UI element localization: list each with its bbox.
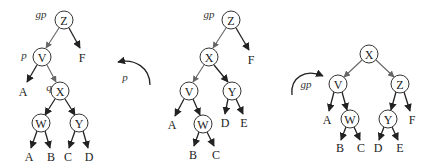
- edge-x-y: [214, 65, 228, 82]
- edge-x-v: [193, 65, 204, 82]
- tree-node-x: X: [360, 45, 378, 63]
- edge-w-c: [207, 132, 214, 146]
- edge-v-w: [193, 99, 200, 115]
- edge-w-b: [45, 131, 50, 148]
- edge-w-a: [31, 131, 37, 148]
- node-key: Y: [384, 113, 393, 127]
- edge-v-a: [329, 92, 334, 111]
- tree-node-v: V: [329, 75, 347, 93]
- tree-node-z: Z: [222, 11, 240, 29]
- subtree-leaf-b: B: [336, 141, 344, 155]
- node-key: Z: [396, 78, 403, 92]
- subtree-leaf-c: C: [357, 141, 365, 155]
- subtree-leaf-a: A: [323, 113, 332, 127]
- edge-y-d: [225, 99, 228, 114]
- node-key: V: [334, 78, 343, 92]
- rotation-label-p: p: [121, 71, 128, 83]
- node-key: Z: [60, 14, 67, 28]
- tree-node-w: W: [341, 110, 359, 128]
- subtree-leaf-e: E: [396, 141, 403, 155]
- pointer-label-gp: gp: [36, 8, 48, 20]
- tree-node-v: V: [33, 48, 51, 66]
- tree-node-x: X: [200, 48, 218, 66]
- edge-y-d: [83, 131, 88, 148]
- tree-node-y: Y: [379, 110, 397, 128]
- subtree-leaf-e: E: [240, 116, 247, 130]
- tree-node-w: W: [194, 115, 212, 133]
- node-key: Y: [75, 117, 84, 131]
- pointer-label-gp: gp: [204, 8, 216, 20]
- edge-v-a: [27, 65, 37, 82]
- edge-z-f: [404, 92, 410, 111]
- node-key: Z: [227, 14, 234, 28]
- edge-x-w: [45, 99, 55, 115]
- subtree-leaf-b: B: [189, 148, 197, 162]
- subtree-leaf-d: D: [374, 141, 383, 155]
- edge-x-v: [344, 60, 362, 77]
- tree-node-w: W: [32, 114, 50, 132]
- node-key: V: [185, 85, 194, 99]
- pointer-label-q: q: [46, 81, 52, 93]
- subtree-leaf-f: F: [79, 51, 86, 65]
- edge-v-a: [175, 99, 184, 116]
- node-key: X: [365, 48, 374, 62]
- edge-y-d: [379, 127, 384, 140]
- edge-z-y: [391, 92, 396, 110]
- tree-rotation-diagram: ZVXWYFAABCDZXVYWFADEBCXVZWYAFBCDE gppqgp…: [0, 0, 440, 166]
- edge-v-w: [342, 92, 347, 110]
- edge-x-z: [376, 60, 394, 77]
- subtree-leaf-c: C: [64, 150, 72, 164]
- edge-x-y: [65, 99, 75, 115]
- tree-node-x: X: [51, 82, 69, 100]
- edge-z-v: [46, 28, 59, 48]
- tree-node-y: Y: [223, 82, 241, 100]
- node-key: Y: [228, 85, 237, 99]
- node-key: W: [35, 117, 47, 131]
- edge-y-e: [392, 127, 398, 140]
- tree-after-edges: [329, 60, 410, 140]
- subtree-leaf-d: D: [221, 116, 230, 130]
- rotation-label-gp: gp: [301, 78, 313, 90]
- subtree-leaf-f: F: [409, 113, 416, 127]
- edge-y-c: [69, 131, 75, 148]
- edge-w-b: [341, 127, 346, 140]
- edge-y-e: [236, 99, 243, 114]
- subtree-leaf-c: C: [212, 148, 220, 162]
- pointer-label-p: p: [20, 49, 27, 61]
- edge-w-c: [354, 127, 360, 140]
- tree-node-z: Z: [391, 75, 409, 93]
- node-key: X: [56, 85, 65, 99]
- subtree-leaf-f: F: [248, 53, 255, 67]
- edge-z-f: [236, 28, 249, 50]
- edge-z-f: [69, 28, 80, 48]
- node-key: X: [205, 51, 214, 65]
- subtree-leaf-a: A: [19, 85, 28, 99]
- subtree-leaf-d: D: [85, 150, 94, 164]
- subtree-leaf-b: B: [47, 150, 55, 164]
- node-key: V: [38, 51, 47, 65]
- subtree-leaf-a: A: [25, 150, 34, 164]
- node-key: W: [197, 118, 209, 132]
- nodes-layer: ZVXWYFAABCDZXVYWFADEBCXVZWYAFBCDE: [19, 11, 416, 164]
- edge-v-x: [47, 65, 56, 82]
- edge-w-b: [194, 132, 199, 146]
- tree-node-z: Z: [55, 11, 73, 29]
- tree-node-v: V: [180, 82, 198, 100]
- edge-z-x: [213, 28, 226, 48]
- tree-node-y: Y: [70, 114, 88, 132]
- subtree-leaf-a: A: [168, 118, 177, 132]
- node-key: W: [344, 113, 356, 127]
